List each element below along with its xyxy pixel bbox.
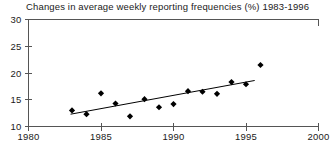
x-tick-label: 1995	[235, 131, 257, 142]
x-tick-label: 1980	[18, 131, 40, 142]
plot-area: 101520253019801985199019952000	[0, 0, 331, 151]
y-tick-label: 30	[11, 14, 22, 25]
data-point-marker	[156, 104, 162, 110]
data-point-marker	[69, 107, 75, 113]
trend-line	[71, 80, 255, 114]
x-tick-label: 2000	[308, 131, 330, 142]
data-point-marker	[214, 91, 220, 97]
tick-labels: 101520253019801985199019952000	[11, 14, 330, 142]
data-points	[69, 62, 264, 120]
x-tick-label: 1985	[90, 131, 112, 142]
tick-marks	[25, 20, 319, 131]
data-point-marker	[257, 62, 263, 68]
chart-figure: Changes in average weekly reporting freq…	[0, 0, 331, 151]
y-tick-label: 25	[11, 41, 22, 52]
y-tick-label: 20	[11, 68, 22, 79]
data-point-marker	[98, 90, 104, 96]
data-point-marker	[170, 101, 176, 107]
y-tick-label: 15	[11, 94, 22, 105]
data-point-marker	[127, 113, 133, 119]
x-tick-label: 1990	[163, 131, 185, 142]
